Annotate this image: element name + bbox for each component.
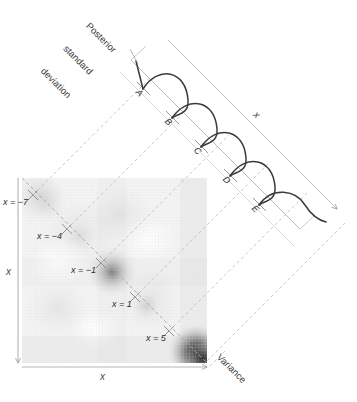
figure-root: Posterior standard deviation x Variance …	[0, 0, 357, 402]
tick-label-x-minus-1: x = −1	[71, 265, 96, 275]
posterior-sd-line3: deviation	[38, 66, 72, 100]
heatmap-ylabel: x	[6, 266, 11, 277]
posterior-label-leader	[130, 49, 138, 64]
tick-label-x-minus-7: x = −7	[3, 197, 28, 207]
tick-label-x-5: x = 5	[146, 333, 166, 343]
posterior-sd-line1: Posterior	[83, 21, 117, 55]
tick-label-x-minus-4: x = −4	[37, 231, 62, 241]
tick-label-x-1: x = 1	[112, 299, 132, 309]
heatmap-xlabel: x	[100, 371, 105, 382]
posterior-sd-line2: standard	[61, 44, 95, 78]
